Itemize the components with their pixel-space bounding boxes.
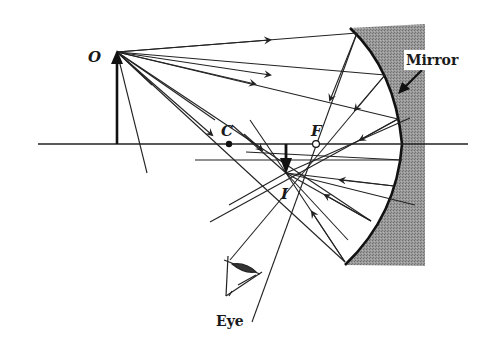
center-label: C: [221, 122, 233, 140]
object-arrow: [111, 50, 123, 144]
center-of-curvature-point: [226, 141, 232, 147]
mirror-label: Mirror: [406, 52, 459, 68]
reflected-rays: [195, 33, 415, 322]
concave-mirror-diagram: O C F I Mirror Eye: [0, 0, 504, 345]
object-label: O: [88, 48, 101, 66]
eye-label: Eye: [216, 313, 244, 329]
eye-icon: [224, 256, 262, 296]
focal-point: [313, 141, 320, 148]
focus-label: F: [310, 122, 323, 140]
image-label: I: [280, 185, 289, 203]
